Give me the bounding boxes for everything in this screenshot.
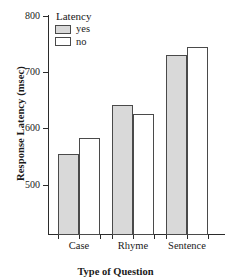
x-axis-tick-5	[154, 234, 155, 239]
legend-label-yes: yes	[76, 24, 90, 35]
x-axis-tick-2	[100, 234, 101, 239]
bar-rhyme-yes	[112, 105, 133, 235]
legend-swatch-no	[55, 37, 71, 46]
bar-chart-figure: Response Latency (msec) 800 700 600 500 …	[0, 0, 231, 280]
bar-case-yes	[58, 154, 79, 235]
y-axis-tick-500	[43, 185, 48, 186]
legend-title: Latency	[55, 10, 91, 22]
legend-item-no: no	[55, 37, 91, 48]
x-axis-tick-label-rhyme: Rhyme	[103, 241, 163, 252]
y-axis-tick-800	[43, 16, 48, 17]
x-axis-title: Type of Question	[0, 266, 231, 277]
x-axis-tick-8	[208, 234, 209, 239]
legend-label-no: no	[76, 37, 87, 48]
legend-item-yes: yes	[55, 24, 91, 35]
y-axis-tick-700	[43, 72, 48, 73]
y-axis-tick-label-700: 700	[0, 67, 40, 77]
x-axis-tick-label-sentence: Sentence	[157, 241, 217, 252]
y-axis-line	[48, 15, 49, 235]
y-axis-tick-600	[43, 128, 48, 129]
legend: Latency yes no	[55, 10, 91, 49]
bar-sentence-no	[187, 47, 208, 235]
bar-case-no	[79, 138, 100, 235]
bar-sentence-yes	[166, 55, 187, 235]
y-axis-tick-label-500: 500	[0, 180, 40, 190]
legend-swatch-yes	[55, 25, 71, 34]
y-axis-tick-label-600: 600	[0, 123, 40, 133]
bar-rhyme-no	[133, 114, 154, 235]
x-axis-tick-label-case: Case	[49, 241, 109, 252]
y-axis-tick-label-800: 800	[0, 11, 40, 21]
